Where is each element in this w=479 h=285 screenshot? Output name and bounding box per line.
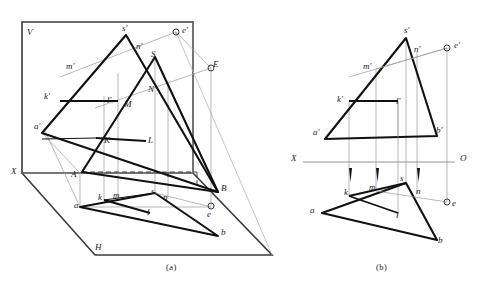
technical-drawing-svg [0, 0, 479, 285]
segment-K-L-left [42, 138, 96, 139]
label-H: H [95, 243, 102, 252]
segment-k-m-horizontal [104, 193, 155, 200]
segment-k-l-horizontal-b [349, 196, 398, 213]
label-N: N [148, 85, 154, 94]
label-V: V [27, 28, 33, 37]
label-k-prime: k′ [44, 92, 50, 101]
label-n-b: n [416, 187, 421, 196]
label-l-prime-b: l′ [396, 97, 400, 106]
label-s: s [151, 187, 155, 196]
label-a-prime: a′ [34, 122, 40, 131]
panel-b-geometry [303, 38, 455, 240]
label-m-prime: m′ [66, 62, 74, 71]
frontal-triangle-a [42, 35, 218, 192]
figure-canvas: V H X s′ n′ m′ k′ l′ a′ e′ S N M K L A B… [0, 0, 479, 285]
label-a-prime-b: a′ [313, 128, 319, 137]
label-l: l [147, 208, 150, 217]
label-e-prime-b: e′ [454, 41, 460, 50]
label-e: e [207, 210, 211, 219]
label-L: L [148, 136, 153, 145]
label-E: E [213, 60, 219, 69]
label-S: S [151, 50, 156, 59]
label-e-b: e [452, 199, 456, 208]
label-A: A [71, 170, 77, 179]
label-b-prime-b: b′ [436, 126, 442, 135]
label-m-b: m [369, 183, 376, 192]
label-l-prime: l′ [107, 96, 111, 105]
label-a-b: a [310, 206, 315, 215]
label-s-prime-b: s′ [404, 26, 409, 35]
label-l-b: l [396, 211, 399, 220]
label-s-b: s [400, 174, 404, 183]
label-k: k [98, 193, 102, 202]
segment-k-l-horizontal [104, 200, 150, 213]
label-b-b: b [438, 236, 443, 245]
label-k-b: k [344, 188, 348, 197]
label-k-prime-b: k′ [337, 95, 343, 104]
label-a: a [74, 201, 79, 210]
projection-arrows-b [349, 168, 420, 182]
label-s-prime: s′ [122, 24, 127, 33]
label-B: B [221, 184, 227, 193]
label-O-b: O [460, 154, 467, 163]
caption-b: (b) [376, 262, 387, 272]
panel-a-geometry [22, 22, 272, 255]
label-e-prime: e′ [182, 26, 188, 35]
label-X-b: X [291, 154, 297, 163]
label-n-prime: n′ [136, 42, 142, 51]
label-n: n [163, 193, 168, 202]
label-X-a: X [11, 167, 17, 176]
label-b: b [221, 228, 226, 237]
caption-a: (a) [166, 262, 177, 272]
projection-lines-a [80, 22, 211, 206]
label-K: K [104, 136, 110, 145]
label-m-prime-b: m′ [363, 62, 371, 71]
label-m: m [113, 191, 120, 200]
label-n-prime-b: n′ [414, 45, 420, 54]
label-M: M [124, 100, 132, 109]
